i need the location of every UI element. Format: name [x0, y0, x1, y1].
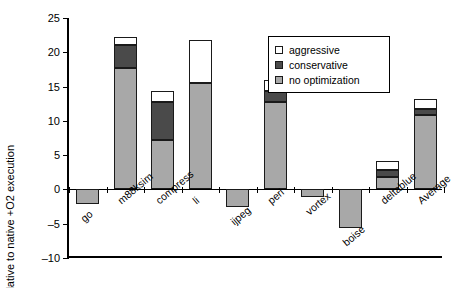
y-tick-label: 10: [22, 115, 60, 127]
y-tick-mark: [63, 258, 69, 259]
bar-segment-conservative: [151, 102, 174, 140]
legend-label-aggressive: aggressive: [289, 44, 340, 56]
bar-segment-no-optimization: [114, 68, 137, 189]
bar-segment-aggressive: [189, 40, 212, 83]
y-tick-label: –5: [22, 218, 60, 230]
x-tick-mark: [369, 187, 370, 193]
x-tick-mark: [294, 187, 295, 193]
y-tick-mark: [63, 18, 69, 19]
y-tick-mark: [63, 121, 69, 122]
legend-label-no-optimization: no optimization: [289, 74, 360, 86]
y-tick-mark: [63, 87, 69, 88]
chart-legend: aggressive conservative no optimization: [268, 36, 390, 93]
x-tick-mark: [69, 187, 70, 193]
legend-swatch-aggressive: [275, 46, 283, 54]
legend-label-conservative: conservative: [289, 59, 348, 71]
y-tick-mark: [63, 224, 69, 225]
y-tick-mark: [63, 52, 69, 53]
legend-swatch-conservative: [275, 61, 283, 69]
bar-segment-aggressive: [151, 91, 174, 102]
bar-segment-no-optimization: [264, 102, 287, 189]
y-tick-label: –10: [22, 252, 60, 264]
bar-chart: Percent speedup relative to native +O2 e…: [0, 0, 457, 288]
x-tick-mark: [332, 187, 333, 193]
y-tick-label: 5: [22, 149, 60, 161]
x-tick-mark: [144, 187, 145, 193]
y-tick-label: 20: [22, 46, 60, 58]
x-tick-mark: [257, 187, 258, 193]
legend-item-conservative: conservative: [275, 57, 383, 72]
legend-item-no-optimization: no optimization: [275, 72, 383, 87]
y-tick-label: 25: [22, 12, 60, 24]
bar-segment-conservative: [264, 91, 287, 102]
x-tick-mark: [444, 187, 445, 193]
bar-segment-conservative: [114, 45, 137, 68]
bar-segment-aggressive: [114, 37, 137, 46]
x-tick-mark: [219, 187, 220, 193]
bar-segment-conservative: [376, 170, 399, 177]
legend-swatch-no-optimization: [275, 76, 283, 84]
y-axis-title: Percent speedup relative to native +O2 e…: [4, 145, 16, 288]
bar-segment-aggressive: [376, 161, 399, 171]
bar-segment-conservative: [414, 109, 437, 115]
y-tick-mark: [63, 189, 69, 190]
y-tick-label: 0: [22, 183, 60, 195]
y-tick-mark: [63, 155, 69, 156]
bar-segment-no-optimization: [76, 189, 99, 203]
bar-segment-aggressive: [414, 99, 437, 109]
legend-item-aggressive: aggressive: [275, 42, 383, 57]
x-tick-mark: [107, 187, 108, 193]
y-tick-label: 15: [22, 81, 60, 93]
